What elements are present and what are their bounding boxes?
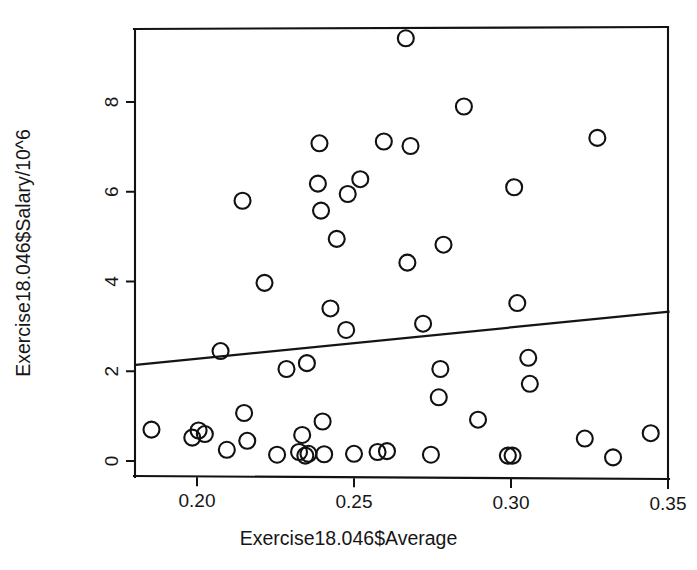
data-point: [310, 176, 326, 192]
x-axis-title: Exercise18.046$Average: [240, 527, 458, 549]
data-point: [399, 255, 415, 271]
data-point: [415, 316, 431, 332]
y-tick-label: 4: [101, 276, 122, 287]
data-point: [435, 237, 451, 253]
data-point: [520, 350, 536, 366]
data-point: [235, 193, 251, 209]
data-point: [346, 446, 362, 462]
data-points: [143, 30, 658, 465]
data-point: [432, 361, 448, 377]
data-point: [236, 405, 252, 421]
x-tick-label: 0.25: [336, 491, 373, 512]
data-point: [398, 30, 414, 46]
y-tick-label: 6: [101, 186, 122, 197]
x-tick-label: 0.35: [650, 493, 687, 514]
scatter-plot-figure: 0.200.250.300.35 02468 Exercise18.046$Av…: [0, 0, 697, 570]
data-point: [352, 171, 368, 187]
x-axis-tick-labels: 0.200.250.300.35: [179, 490, 687, 514]
data-point: [315, 414, 331, 430]
data-point: [643, 425, 659, 441]
data-point: [589, 130, 605, 146]
data-point: [403, 138, 419, 154]
data-point: [577, 431, 593, 447]
plot-frame: [134, 27, 669, 479]
data-point: [456, 98, 472, 114]
data-point: [338, 322, 354, 338]
y-axis-title: Exercise18.046$Salary/10^6: [12, 129, 34, 377]
data-point: [269, 447, 285, 463]
data-point: [509, 295, 525, 311]
x-tick-label: 0.30: [493, 492, 530, 513]
y-tick-label: 2: [101, 366, 122, 377]
data-point: [506, 179, 522, 195]
y-axis-tick-labels: 02468: [101, 97, 122, 467]
y-tick-label: 8: [101, 97, 122, 108]
data-point: [143, 422, 159, 438]
y-axis-ticks: [126, 102, 135, 461]
data-point: [311, 135, 327, 151]
data-point: [322, 300, 338, 316]
data-point: [257, 275, 273, 291]
y-tick-label: 0: [101, 456, 122, 467]
data-point: [340, 186, 356, 202]
data-point: [605, 449, 621, 465]
x-tick-label: 0.20: [179, 490, 216, 511]
data-point: [470, 412, 486, 428]
data-point: [522, 376, 538, 392]
data-point: [431, 389, 447, 405]
data-point: [316, 446, 332, 462]
data-point: [278, 361, 294, 377]
data-point: [313, 203, 329, 219]
data-point: [329, 231, 345, 247]
data-point: [376, 133, 392, 149]
data-point: [219, 442, 235, 458]
plot-canvas: 0.200.250.300.35 02468 Exercise18.046$Av…: [0, 0, 697, 570]
data-point: [239, 433, 255, 449]
data-point: [299, 355, 315, 371]
data-point: [379, 443, 395, 459]
data-point: [294, 427, 310, 443]
data-point: [423, 447, 439, 463]
